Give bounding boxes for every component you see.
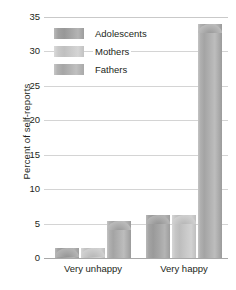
bar-fill [198,24,222,258]
chart-legend: Adolescents Mothers Fathers [54,24,164,78]
fathers-swatch-icon [54,64,84,75]
bar-fathers-very-unhappy [107,221,131,258]
legend-item-adolescents: Adolescents [54,24,164,42]
mothers-swatch-icon [54,46,84,57]
bar-adolescents-very-happy [146,215,170,258]
legend-item-mothers: Mothers [54,42,164,60]
x-axis-label-very-happy: Very happy [140,263,228,274]
bar-adolescents-very-unhappy [55,248,79,258]
legend-label-mothers: Mothers [93,46,131,57]
bar-fill [107,221,131,258]
bar-chart: Percent of self-reports 35 30 25 20 15 1… [0,0,236,290]
bar-fill [55,248,79,258]
gridline-0-baseline [44,258,228,259]
bar-fathers-very-happy [198,24,222,258]
bar-mothers-very-unhappy [81,248,105,258]
bar-fill [81,248,105,258]
x-axis-label-very-unhappy: Very unhappy [49,263,137,274]
bar-mothers-very-happy [172,215,196,258]
y-tick-label: 15 [16,150,40,160]
y-tick-label: 10 [16,184,40,194]
adolescents-swatch-icon [54,28,84,39]
y-tick-label: 0 [16,253,40,263]
y-tick-label: 35 [16,12,40,22]
legend-label-fathers: Fathers [93,64,129,75]
y-axis-tick-labels: 35 30 25 20 15 10 5 0 [16,17,40,258]
y-tick-label: 5 [16,219,40,229]
bar-fill [146,215,170,258]
y-tick-label: 20 [16,115,40,125]
gridline-35 [44,17,228,18]
bar-fill [172,215,196,258]
legend-item-fathers: Fathers [54,60,164,78]
y-tick-label: 25 [16,81,40,91]
y-tick-label: 30 [16,46,40,56]
legend-label-adolescents: Adolescents [93,28,149,39]
x-axis-labels: Very unhappy Very happy [44,263,228,279]
